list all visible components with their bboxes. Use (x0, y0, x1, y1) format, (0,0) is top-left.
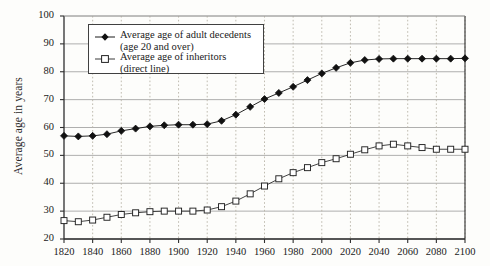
data-point-inheritors (118, 211, 124, 217)
data-point-decedents (61, 132, 68, 139)
legend-label-decedents: Average age of adult decedents (age 20 a… (120, 29, 251, 52)
legend-label-inheritors-main: Average age of inheritors (120, 51, 226, 62)
data-point-decedents (132, 125, 139, 132)
data-point-decedents (146, 123, 153, 130)
data-point-inheritors (362, 147, 368, 153)
data-point-decedents (333, 64, 340, 71)
y-tick-label: 30 (28, 204, 54, 215)
legend-label-inheritors-sub: (direct line) (120, 63, 226, 75)
x-tick-label: 2100 (445, 246, 485, 257)
data-point-inheritors (390, 141, 396, 147)
y-tick-label: 100 (28, 9, 54, 20)
data-point-decedents (419, 55, 426, 62)
data-point-inheritors (133, 210, 139, 216)
data-point-inheritors (376, 143, 382, 149)
data-point-inheritors (262, 183, 268, 189)
y-tick-label: 70 (28, 93, 54, 104)
data-point-inheritors (405, 143, 411, 149)
data-point-decedents (261, 96, 268, 103)
data-point-inheritors (233, 198, 239, 204)
data-point-decedents (318, 70, 325, 77)
data-point-inheritors (104, 214, 110, 220)
data-point-decedents (290, 83, 297, 90)
data-point-inheritors (219, 204, 225, 210)
legend-label-decedents-main: Average age of adult decedents (120, 29, 251, 40)
data-point-inheritors (161, 208, 167, 214)
data-point-inheritors (290, 170, 296, 176)
data-point-decedents (89, 132, 96, 139)
y-tick-label: 40 (28, 176, 54, 187)
data-point-inheritors (61, 218, 67, 224)
data-point-inheritors (90, 217, 96, 223)
filled-diamond-icon (94, 31, 116, 43)
chart-legend: Average age of adult decedents (age 20 a… (88, 24, 264, 74)
data-point-decedents (433, 55, 440, 62)
chart-figure: Average age in years Average age of adul… (0, 0, 490, 266)
y-tick-label: 90 (28, 37, 54, 48)
open-square-icon (94, 53, 116, 65)
y-tick-label: 50 (28, 148, 54, 159)
data-point-decedents (232, 111, 239, 118)
legend-label-inheritors: Average age of inheritors (direct line) (120, 51, 226, 74)
data-point-decedents (390, 55, 397, 62)
y-tick-label: 20 (28, 232, 54, 243)
data-point-decedents (247, 103, 254, 110)
y-tick-label: 60 (28, 121, 54, 132)
data-point-decedents (376, 55, 383, 62)
data-point-inheritors (276, 176, 282, 182)
data-point-inheritors (448, 146, 454, 152)
data-point-decedents (304, 77, 311, 84)
data-point-decedents (204, 121, 211, 128)
data-point-inheritors (147, 209, 153, 215)
data-point-decedents (75, 133, 82, 140)
data-point-inheritors (304, 165, 310, 171)
data-point-inheritors (419, 145, 425, 151)
data-point-inheritors (319, 160, 325, 166)
data-point-inheritors (190, 208, 196, 214)
data-point-decedents (118, 127, 125, 134)
y-tick-label: 80 (28, 65, 54, 76)
data-point-decedents (103, 131, 110, 138)
data-point-inheritors (247, 191, 253, 197)
data-point-decedents (218, 117, 225, 124)
data-point-decedents (447, 55, 454, 62)
data-point-decedents (404, 55, 411, 62)
data-point-decedents (275, 89, 282, 96)
data-point-decedents (462, 55, 469, 62)
data-point-inheritors (75, 219, 81, 225)
data-point-inheritors (333, 156, 339, 162)
data-point-inheritors (433, 146, 439, 152)
data-point-inheritors (462, 146, 468, 152)
data-point-inheritors (204, 207, 210, 213)
legend-entry-decedents: Average age of adult decedents (age 20 a… (94, 29, 251, 52)
data-point-inheritors (347, 151, 353, 157)
data-point-decedents (347, 59, 354, 66)
legend-entry-inheritors: Average age of inheritors (direct line) (94, 51, 226, 74)
data-point-decedents (361, 57, 368, 64)
data-point-inheritors (176, 208, 182, 214)
